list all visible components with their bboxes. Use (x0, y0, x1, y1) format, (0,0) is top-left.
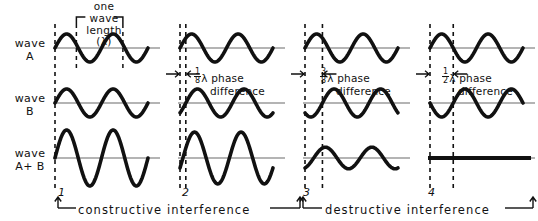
phase-arrow-right-panel-4 (454, 71, 467, 77)
phase-arrow-left-panel-4 (416, 71, 429, 77)
wave-interference-diagram: wave A wave B wave A+ B one wave length … (0, 0, 538, 221)
wavelength-bracket-left (76, 17, 85, 24)
wavelength-bracket-right (114, 17, 123, 24)
phase-arrow-left-panel-2 (166, 71, 179, 77)
phase-arrow-left-panel-3 (291, 71, 304, 77)
phase-arrow-right-panel-3 (323, 71, 336, 77)
destructive-rule-right-arrowhead (530, 197, 536, 208)
constructive-rule-left-arrowhead (55, 197, 61, 208)
wave-strokes-overlay (0, 0, 538, 221)
phase-arrow-right-panel-2 (187, 71, 200, 77)
